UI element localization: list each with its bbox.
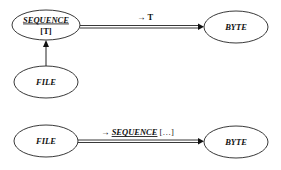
node-byte-top[interactable]: BYTE (204, 11, 268, 43)
arrowhead-icon (198, 138, 204, 145)
node-label-file: FILE (35, 136, 56, 146)
arrowhead-icon (198, 24, 204, 31)
node-sublabel-type-param: [T] (40, 26, 52, 36)
node-file-bottom[interactable]: FILE (14, 125, 78, 157)
node-label-byte: BYTE (224, 22, 247, 32)
node-label-file: FILE (35, 77, 56, 87)
arrowhead-icon (43, 40, 49, 47)
node-file-top[interactable]: FILE (14, 66, 78, 98)
node-label-sequence: SEQUENCE (23, 15, 69, 25)
node-label-byte: BYTE (224, 137, 247, 147)
edge-file-to-byte: → SEQUENCE […] (78, 127, 204, 145)
node-byte-bottom[interactable]: BYTE (204, 126, 268, 158)
class-diagram: → T → SEQUENCE […] SEQUENCE [T] BYTE FIL… (0, 0, 281, 170)
node-sequence[interactable]: SEQUENCE [T] (12, 10, 80, 40)
edge-label-sequence-to-byte: → T (137, 12, 153, 22)
edge-file-to-sequence (43, 40, 49, 66)
edge-sequence-to-byte: → T (80, 12, 204, 30)
edge-label-file-to-byte: → SEQUENCE […] (101, 127, 174, 137)
